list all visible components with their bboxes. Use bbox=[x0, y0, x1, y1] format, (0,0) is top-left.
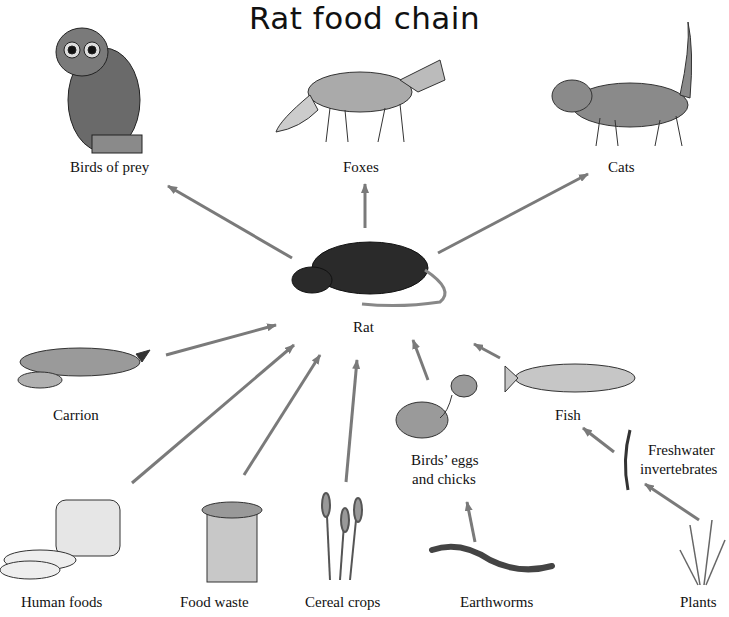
label-fish: Fish bbox=[555, 406, 581, 425]
label-birds-of-prey: Birds of prey bbox=[70, 158, 149, 177]
label-invertebrates: invertebrates bbox=[640, 460, 717, 479]
owl-illustration bbox=[56, 28, 142, 153]
rat-illustration bbox=[292, 242, 445, 306]
earthworm-illustration bbox=[432, 547, 552, 570]
illustrations-layer bbox=[0, 0, 729, 617]
plants-illustration bbox=[680, 520, 725, 585]
invertebrate-illustration bbox=[625, 430, 630, 490]
label-plants: Plants bbox=[680, 593, 717, 612]
cereal-illustration bbox=[322, 493, 362, 580]
label-rat: Rat bbox=[353, 318, 374, 337]
label-earthworms: Earthworms bbox=[460, 593, 533, 612]
label-foxes: Foxes bbox=[343, 158, 379, 177]
label-human-foods: Human foods bbox=[21, 593, 102, 612]
fish-illustration bbox=[505, 364, 635, 392]
food-waste-illustration bbox=[202, 502, 262, 582]
cat-illustration bbox=[552, 22, 692, 146]
label-freshwater: Freshwater bbox=[648, 441, 715, 460]
carrion-illustration bbox=[18, 348, 150, 388]
label-cereal-crops: Cereal crops bbox=[305, 593, 380, 612]
label-carrion: Carrion bbox=[53, 406, 99, 425]
label-cats: Cats bbox=[608, 158, 635, 177]
bread-illustration bbox=[0, 500, 120, 579]
chick-illustration bbox=[396, 375, 477, 438]
label-food-waste: Food waste bbox=[180, 593, 249, 612]
label-and-chicks: and chicks bbox=[412, 470, 476, 489]
label-birds-eggs: Birds’ eggs bbox=[411, 451, 479, 470]
fox-illustration bbox=[276, 60, 445, 142]
